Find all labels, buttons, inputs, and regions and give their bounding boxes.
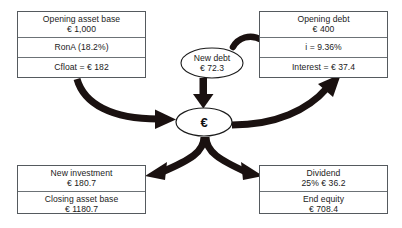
row-label: i = 9.36% [305,42,342,52]
row-label: New investment [51,168,113,178]
equity-box: Dividend 25% € 36.2 End equity € 708.4 [259,165,388,214]
arrow-debt-to-newdebt [233,37,262,47]
row-label: Interest = € 37.4 [292,62,355,72]
table-row: Opening debt € 400 [260,12,387,37]
row-label: Cfloat = € 182 [54,62,108,72]
table-row: Dividend 25% € 36.2 [260,166,387,191]
arrow-hub-to-equity-shaft [206,137,246,172]
table-row: RonA (18.2%) [18,37,145,57]
row-label: RonA (18.2%) [54,42,108,52]
arrow-newdebt-to-hub-head [193,94,214,109]
arrow-hub-to-debt-shaft [232,88,327,125]
row-value: € 708.4 [309,204,338,214]
row-value: € 1180.7 [65,204,98,214]
arrow-assets-to-hub-head [155,110,176,130]
row-value: € 1,000 [67,24,96,34]
opening-asset-base-box: Opening asset base € 1,000 RonA (18.2%) … [17,11,146,78]
row-value: € 400 [313,24,335,34]
table-row: Interest = € 37.4 [260,57,387,77]
table-row: New investment € 180.7 [18,166,145,191]
row-value: € 180.7 [67,178,96,188]
euro-hub-ellipse [176,108,232,136]
row-label: Opening asset base [43,14,120,24]
investment-box: New investment € 180.7 Closing asset bas… [17,165,146,214]
arrow-hub-to-investment-head [145,162,167,180]
arrow-newdebt-to-hub-shaft [200,78,208,96]
row-label: Closing asset base [45,194,119,204]
arrow-assets-to-hub-shaft [77,79,158,119]
table-row: Opening asset base € 1,000 [18,12,145,37]
table-row: i = 9.36% [260,37,387,57]
opening-debt-box: Opening debt € 400 i = 9.36% Interest = … [259,11,388,78]
table-row: Cfloat = € 182 [18,57,145,77]
row-label: Dividend [307,168,341,178]
diagram-canvas: New debt € 72.3 € Opening asset base € 1… [0,0,402,228]
row-label: Opening debt [297,14,349,24]
table-row: End equity € 708.4 [260,191,387,217]
table-row: Closing asset base € 1180.7 [18,191,145,217]
new-debt-ellipse [181,48,243,78]
row-label: End equity [303,194,344,204]
row-value: 25% € 36.2 [302,178,346,188]
arrow-hub-to-investment-shaft [162,137,204,172]
